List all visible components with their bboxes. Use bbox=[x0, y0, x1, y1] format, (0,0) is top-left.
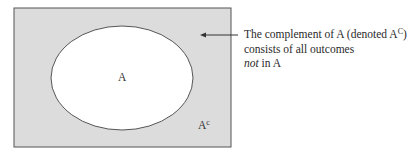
annotation-line-1-text: The complement of A (denoted A bbox=[244, 28, 398, 40]
annotation-not-italic: not bbox=[244, 57, 259, 69]
complement-label: Ac bbox=[198, 119, 210, 131]
set-a-label: A bbox=[118, 71, 126, 83]
annotation-line-1-suffix: ) bbox=[403, 28, 407, 40]
annotation-line-3-text: in A bbox=[259, 57, 281, 69]
complement-annotation: The complement of A (denoted AC) consist… bbox=[244, 27, 407, 71]
annotation-line-3: not in A bbox=[244, 56, 407, 71]
complement-label-sup: c bbox=[206, 118, 210, 127]
annotation-line-1: The complement of A (denoted AC) bbox=[244, 27, 407, 42]
annotation-line-2: consists of all outcomes bbox=[244, 42, 407, 57]
